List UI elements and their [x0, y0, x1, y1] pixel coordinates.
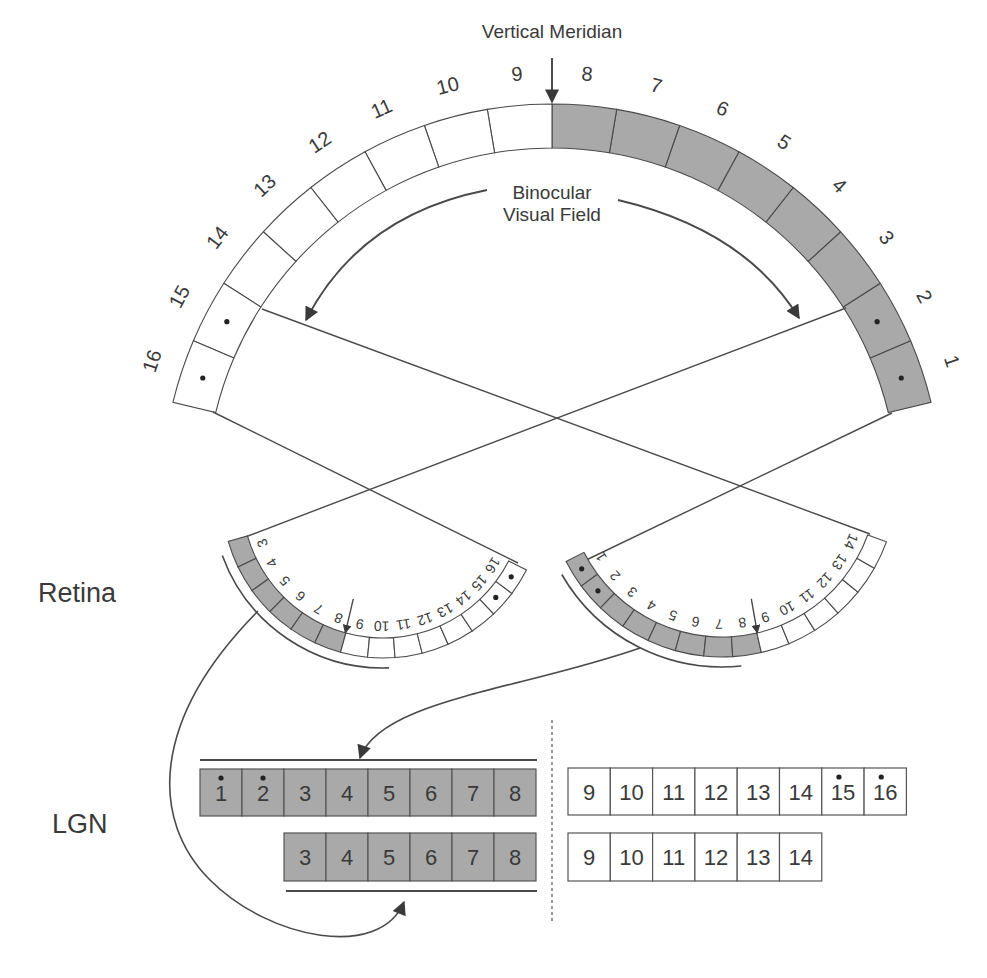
- lgn-left-bottom-row: 345678: [284, 833, 536, 881]
- retina-right-label-3: 3: [624, 583, 640, 600]
- lgn-right-top-row-cell-13: 13: [737, 768, 779, 815]
- lgn-layers: 1234567834567891011121314151691011121314: [200, 768, 906, 881]
- lgn-cell-label: 12: [704, 845, 728, 870]
- lgn-left-top-row-cell-1: 1: [200, 769, 242, 816]
- lgn-left-top-row-cell-3: 3: [284, 769, 326, 816]
- lgn-cell-label: 16: [873, 780, 897, 805]
- visual-field-label-4: 4: [828, 174, 851, 198]
- lgn-right-bottom-row-cell-9: 9: [568, 833, 610, 881]
- visual-pathway-diagram: Vertical Meridian 1234567891011121314151…: [0, 0, 987, 978]
- retina-left-cell-16: 16: [482, 554, 527, 593]
- retina-label: Retina: [38, 578, 117, 608]
- lgn-right-top-row-cell-12: 12: [695, 768, 737, 815]
- retina-left-label-11: 11: [395, 616, 412, 634]
- dot-marker-icon: [493, 595, 498, 600]
- retina-left-label-12: 12: [415, 609, 435, 629]
- retina-right-label-7: 7: [715, 616, 723, 632]
- lgn-cell-label: 3: [299, 845, 311, 870]
- visual-field-label-6: 6: [713, 96, 732, 121]
- lgn-cell-label: 9: [583, 845, 595, 870]
- retina-right-label-4: 4: [644, 597, 659, 615]
- lgn-left-top-row-cell-2: 2: [242, 769, 284, 816]
- visual-field-label-11: 11: [367, 94, 395, 123]
- visual-field-cell-10: 10: [424, 72, 494, 167]
- lgn-cell-label: 2: [257, 781, 269, 806]
- binocular-label-line2: Visual Field: [503, 204, 601, 225]
- retina-right-label-14: 14: [841, 531, 862, 552]
- retina-left-label-4: 4: [263, 555, 281, 570]
- lgn-left-top-row-cell-5: 5: [368, 769, 410, 816]
- visual-field-label-16: 16: [138, 347, 166, 375]
- retina-right-label-6: 6: [690, 613, 701, 630]
- lgn-cell-label: 3: [299, 781, 311, 806]
- lgn-right-bottom-row: 91011121314: [568, 833, 822, 881]
- visual-field-label-5: 5: [774, 130, 795, 154]
- visual-field-label-15: 15: [164, 282, 194, 312]
- dot-marker-icon: [579, 566, 584, 571]
- lgn-left-bottom-row-cell-8: 8: [494, 833, 536, 881]
- lgn-cell-label: 13: [746, 780, 770, 805]
- lgn-cell-label: 1: [215, 781, 227, 806]
- dot-marker-icon: [879, 774, 884, 779]
- retina-right-label-2: 2: [606, 567, 623, 584]
- dot-marker-icon: [899, 375, 904, 380]
- lgn-label: LGN: [52, 809, 108, 839]
- lgn-cell-label: 13: [746, 845, 770, 870]
- lgn-left-bottom-row-cell-5: 5: [368, 833, 410, 881]
- dot-marker-icon: [875, 319, 880, 324]
- visual-field-label-7: 7: [648, 73, 664, 97]
- retina-right-cell-7: 7: [704, 616, 733, 657]
- lgn-left-top-row-cell-4: 4: [326, 769, 368, 816]
- lgn-cell-label: 15: [831, 780, 855, 805]
- retina-left-label-16: 16: [482, 554, 504, 576]
- retina-left-label-10: 10: [374, 618, 390, 634]
- retina-right-label-9: 9: [759, 609, 771, 627]
- lgn-cell-label: 8: [509, 845, 521, 870]
- lgn-right-top-row-cell-14: 14: [780, 768, 822, 815]
- lgn-left-bottom-row-cell-6: 6: [410, 833, 452, 881]
- lgn-left-top-row: 12345678: [200, 769, 536, 816]
- right-retina-to-lgn-curve-icon: [360, 648, 640, 758]
- retina-right-label-11: 11: [796, 585, 817, 607]
- retina-right-label-10: 10: [776, 598, 797, 619]
- retina-left-label-3: 3: [253, 536, 271, 549]
- dot-marker-icon: [836, 774, 841, 779]
- lgn-right-bottom-row-cell-11: 11: [653, 833, 695, 881]
- visual-field-label-3: 3: [875, 226, 899, 248]
- lgn-cell-label: 10: [619, 780, 643, 805]
- lgn-right-top-row-cell-16: 16: [864, 768, 906, 815]
- dot-marker-icon: [200, 375, 205, 380]
- lgn-cell-label: 5: [383, 781, 395, 806]
- lgn-right-bottom-row-cell-10: 10: [610, 833, 652, 881]
- visual-field-label-13: 13: [249, 170, 280, 201]
- retina-left-label-14: 14: [452, 587, 474, 609]
- retina-left-label-8: 8: [332, 609, 345, 627]
- lgn-cell-label: 6: [425, 845, 437, 870]
- retina-right-arc: 1234567891011121314: [562, 531, 887, 667]
- lgn-cell-label: 11: [662, 845, 685, 870]
- lgn-left-bottom-row-cell-7: 7: [452, 833, 494, 881]
- retina-right-label-1: 1: [592, 549, 610, 564]
- visual-field-label-9: 9: [510, 62, 523, 85]
- lgn-cell-label: 9: [583, 780, 595, 805]
- dot-marker-icon: [260, 775, 265, 780]
- retina-right-label-5: 5: [666, 607, 679, 625]
- retina-right-cell-6: 6: [675, 613, 706, 656]
- retina-left-label-15: 15: [468, 572, 490, 594]
- lgn-cell-label: 7: [467, 781, 479, 806]
- retina-left-cell-9: 9: [341, 616, 370, 658]
- dot-marker-icon: [224, 319, 229, 324]
- lgn-cell-label: 6: [425, 781, 437, 806]
- lgn-cell-label: 11: [662, 780, 685, 805]
- lgn-right-top-row: 910111213141516: [568, 768, 906, 815]
- retina-right-label-8: 8: [737, 614, 747, 631]
- visual-field-cell-16: 16: [138, 341, 234, 413]
- dot-marker-icon: [218, 775, 223, 780]
- visual-field-cell-9: 9: [487, 62, 552, 152]
- projection-lines: [213, 308, 892, 563]
- lgn-right-bottom-row-cell-14: 14: [780, 833, 822, 881]
- retina-left-arc: 345678910111213141516: [222, 536, 526, 668]
- lgn-left-top-row-cell-6: 6: [410, 769, 452, 816]
- binocular-label-line1: Binocular: [512, 182, 592, 203]
- retina-left-fovea-arrow-icon: [345, 599, 353, 633]
